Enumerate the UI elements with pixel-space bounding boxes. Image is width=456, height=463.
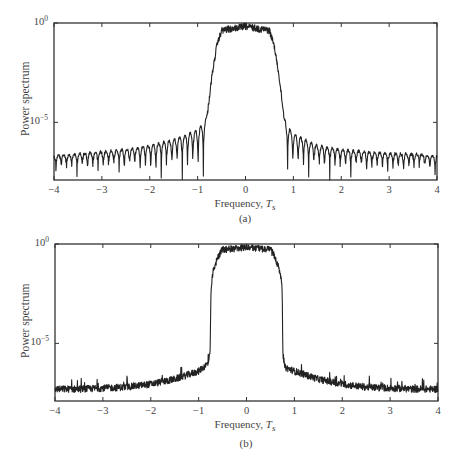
axes-frame <box>54 23 437 180</box>
x-tick-label: 3 <box>380 405 400 416</box>
x-tick-label: −1 <box>188 184 208 195</box>
x-tick-label: 0 <box>237 405 257 416</box>
x-axis-label-a: Frequency, Ts <box>165 197 325 212</box>
x-tick-label: −4 <box>44 184 64 195</box>
spectrum-line <box>54 23 437 180</box>
axes-frame <box>55 244 438 401</box>
caption-a: (a) <box>225 212 265 224</box>
plot-area-a <box>0 0 456 230</box>
caption-b: (b) <box>226 437 266 449</box>
y-tick-1e-5-b: 10−5 <box>9 336 49 347</box>
x-tick-label: 3 <box>379 184 399 195</box>
x-tick-label: −2 <box>141 405 161 416</box>
x-tick-label: 1 <box>283 184 303 195</box>
y-tick-1e0-a: 100 <box>8 16 48 27</box>
x-tick-label: −2 <box>140 184 160 195</box>
y-axis-label-b: Power spectrum <box>19 288 31 358</box>
x-axis-label-b: Frequency, Ts <box>165 418 325 433</box>
x-tick-label: 0 <box>236 184 256 195</box>
x-tick-label: 2 <box>332 405 352 416</box>
y-tick-1e0-b: 100 <box>9 237 49 248</box>
chart-panel-b: Power spectrum 100 10−5 −4−3−2−101234 Fr… <box>0 230 456 463</box>
x-tick-label: 1 <box>284 405 304 416</box>
chart-panel-a: Power spectrum 100 10−5 −4−3−2−101234 Fr… <box>0 0 456 230</box>
x-tick-label: 4 <box>428 405 448 416</box>
spectrum-line <box>55 244 438 392</box>
x-tick-label: −3 <box>92 184 112 195</box>
x-tick-label: 2 <box>331 184 351 195</box>
x-tick-label: 4 <box>427 184 447 195</box>
y-tick-1e-5-a: 10−5 <box>8 115 48 126</box>
x-tick-label: −1 <box>189 405 209 416</box>
x-tick-label: −3 <box>93 405 113 416</box>
x-tick-label: −4 <box>45 405 65 416</box>
